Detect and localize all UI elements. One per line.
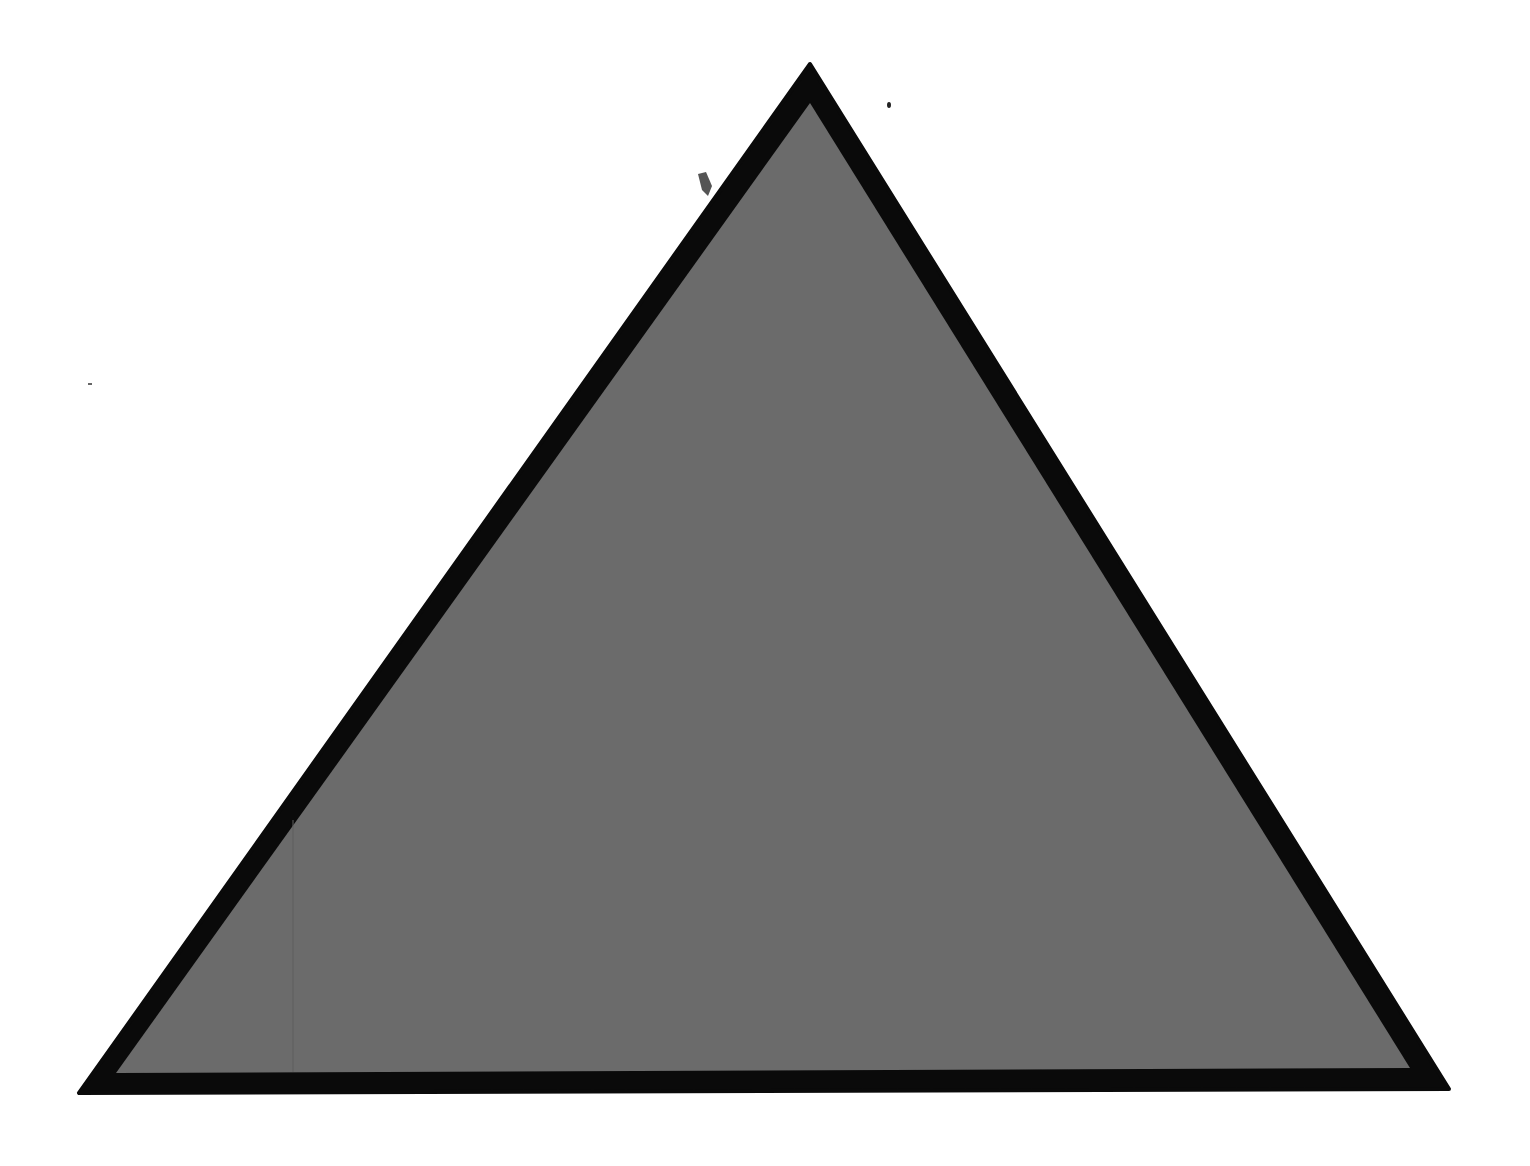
ink-smudge [698, 172, 712, 196]
canvas [0, 0, 1530, 1166]
ink-dot [887, 102, 891, 108]
ink-dash [88, 383, 92, 385]
triangle-fill [116, 103, 1410, 1073]
